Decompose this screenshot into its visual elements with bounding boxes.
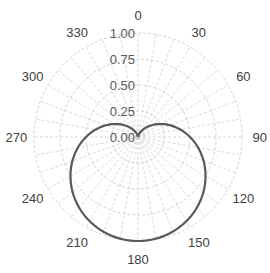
angle-tick-label: 210 [66, 235, 88, 250]
angle-tick-label: 30 [192, 25, 206, 40]
angle-tick-label: 60 [236, 69, 250, 84]
grid-spoke [138, 101, 236, 137]
angle-tick-label: 330 [66, 25, 88, 40]
radial-tick-label: 0.25 [110, 104, 135, 119]
angle-tick-label: 90 [252, 130, 266, 145]
angle-tick-label: 240 [22, 191, 44, 206]
radial-tick-label: 0.75 [110, 52, 135, 67]
grid-spoke [138, 137, 174, 235]
angle-tick-label: 0 [134, 8, 141, 23]
radial-tick-label: 0.50 [110, 78, 135, 93]
angle-tick-label: 270 [5, 130, 27, 145]
angle-tick-label: 150 [188, 235, 210, 250]
radial-tick-label: 1.00 [110, 26, 135, 41]
radial-tick-label: 0.00 [110, 130, 135, 145]
angle-tick-label: 120 [233, 191, 255, 206]
grid-spoke [102, 137, 138, 235]
polar-chart-svg: 0.000.250.500.751.00 0306090120150180210… [0, 0, 270, 273]
grid-spoke [138, 39, 174, 137]
grid-spoke [138, 137, 236, 173]
angle-tick-label: 180 [127, 252, 149, 267]
angle-tick-label: 300 [22, 69, 44, 84]
